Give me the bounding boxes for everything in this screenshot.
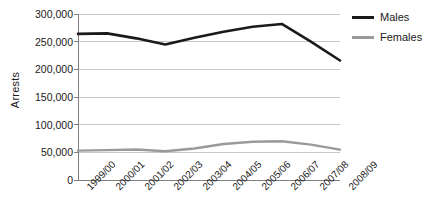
series-line-females [78, 141, 340, 151]
series-line-males [78, 24, 340, 61]
legend-item-label: Males [380, 12, 409, 23]
legend-swatch-icon [352, 36, 374, 39]
line-chart: Arrests 050,000100,000150,000200,000250,… [0, 0, 440, 222]
legend-swatch-icon [352, 16, 374, 19]
legend-item-label: Females [380, 32, 422, 43]
legend-item[interactable]: Males [352, 8, 438, 26]
chart-legend: MalesFemales [352, 8, 438, 48]
legend-item[interactable]: Females [352, 28, 438, 46]
